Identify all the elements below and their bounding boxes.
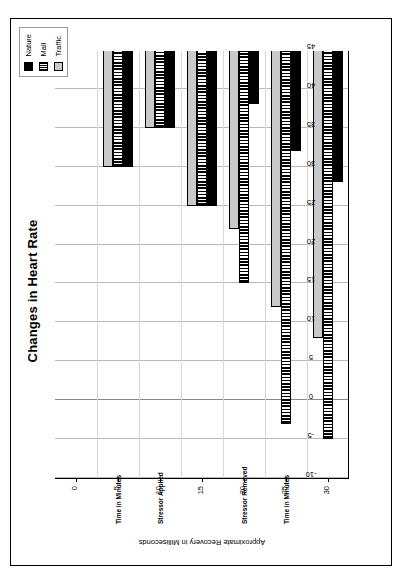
value-axis-tick: 30	[307, 159, 315, 168]
bar-traffic-15	[187, 51, 197, 206]
category-tick-mark	[76, 478, 77, 482]
rotated-figure-wrapper: Changes in Heart Rate Nature Mall Traffi…	[0, 0, 409, 584]
category-separator	[307, 51, 308, 478]
value-axis-tick: 45	[307, 42, 315, 51]
value-axis-tick: 5	[309, 353, 313, 362]
category-separator	[223, 51, 224, 478]
bar-nature-15	[207, 51, 217, 206]
plot-area: 05Time in Minutes10Stressor Applied1520S…	[55, 51, 349, 479]
bar-traffic-30	[313, 51, 323, 338]
gridline	[55, 321, 348, 322]
category-separator	[97, 51, 98, 478]
gridline	[55, 244, 348, 245]
bar-nature-5	[123, 51, 133, 167]
chart-title: Changes in Heart Rate	[25, 17, 40, 565]
gridline	[55, 360, 348, 361]
category-axis-note: Time in Minutes	[115, 475, 122, 524]
category-tick-mark	[202, 478, 203, 482]
plot-inner	[55, 51, 348, 478]
legend-label-mall: Mall	[39, 43, 48, 57]
bar-mall-30	[323, 51, 333, 439]
bar-mall-5	[113, 51, 123, 167]
gridline	[55, 438, 348, 439]
bar-traffic-10	[145, 51, 155, 128]
bar-nature-30	[333, 51, 343, 182]
bar-traffic-25	[271, 51, 281, 307]
bar-mall-10	[155, 51, 165, 128]
value-axis-tick: 20	[307, 237, 315, 246]
nature-swatch-icon	[24, 62, 33, 71]
category-axis-note: Stressor Applied	[157, 472, 164, 524]
category-separator	[139, 51, 140, 478]
value-axis-tick: 10	[307, 314, 315, 323]
value-axis-title: Approximate Recovery in Milliseconds	[55, 538, 349, 547]
category-tick-mark	[328, 478, 329, 482]
bar-nature-20	[249, 51, 259, 104]
bar-traffic-20	[229, 51, 239, 229]
value-axis-tick: 40	[307, 81, 315, 90]
chart-frame: Changes in Heart Rate Nature Mall Traffi…	[10, 18, 392, 566]
bar-traffic-5	[103, 51, 113, 167]
bar-mall-25	[281, 51, 291, 424]
bar-nature-10	[165, 51, 175, 128]
gridline	[55, 399, 348, 400]
value-axis-tick: -5	[308, 431, 315, 440]
category-axis-note: Time in Minutes	[283, 475, 290, 524]
legend-label-nature: Nature	[24, 34, 33, 57]
value-axis-tick: -10	[306, 470, 317, 479]
category-separator	[265, 51, 266, 478]
value-axis-tick: 15	[307, 275, 315, 284]
gridline	[55, 282, 348, 283]
category-axis-note: Stressor Removed	[241, 467, 248, 524]
legend-item-mall: Mall	[39, 34, 48, 71]
value-axis-tick: 35	[307, 120, 315, 129]
bar-nature-25	[291, 51, 301, 151]
bar-mall-15	[197, 51, 207, 206]
legend-item-nature: Nature	[24, 34, 33, 71]
mall-swatch-icon	[39, 62, 48, 71]
category-separator	[181, 51, 182, 478]
bar-mall-20	[239, 51, 249, 283]
screenshot-page: Changes in Heart Rate Nature Mall Traffi…	[0, 0, 409, 584]
value-axis-tick: 25	[307, 198, 315, 207]
value-axis-tick: 0	[309, 392, 313, 401]
